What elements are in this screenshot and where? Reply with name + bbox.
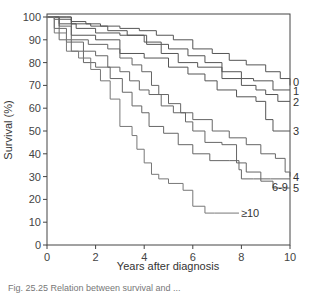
y-tick-label: 30	[29, 171, 41, 183]
x-axis-title: Years after diagnosis	[117, 260, 220, 272]
curve->=10	[47, 17, 239, 213]
x-tick-label: 0	[44, 251, 50, 263]
y-tick-label: 20	[29, 193, 41, 205]
y-tick-label: 50	[29, 125, 41, 137]
figure-caption: Fig. 25.25 Relation between survival and…	[8, 283, 181, 293]
x-tick-label: 8	[238, 251, 244, 263]
y-axis-title: Survival (%)	[2, 100, 14, 159]
y-axis: 0102030405060708090100	[23, 11, 47, 251]
curve-label-5: 5	[293, 182, 299, 194]
y-tick-label: 80	[29, 57, 41, 69]
curve-3	[47, 17, 290, 131]
x-tick-label: 10	[284, 251, 296, 263]
y-tick-label: 40	[29, 148, 41, 160]
survival-curves	[47, 17, 290, 213]
curve-label-4: 4	[293, 171, 299, 183]
curve-label-2: 2	[293, 96, 299, 108]
y-tick-label: 90	[29, 34, 41, 46]
y-tick-label: 10	[29, 216, 41, 228]
curve-label-3: 3	[293, 125, 299, 137]
y-tick-label: 60	[29, 102, 41, 114]
y-tick-label: 70	[29, 79, 41, 91]
curve-label-1: 1	[293, 85, 299, 97]
curve-label->=10: ≥10	[241, 207, 259, 219]
x-tick-label: 2	[93, 251, 99, 263]
curve-label-6-9: 6-9	[272, 181, 288, 193]
y-tick-label: 0	[35, 239, 41, 251]
y-tick-label: 100	[23, 11, 41, 23]
